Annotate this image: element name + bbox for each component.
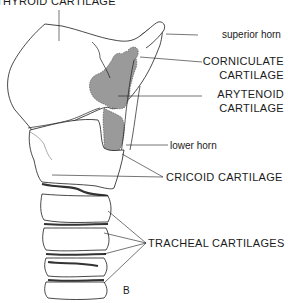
label-tracheal-cartilages: TRACHEAL CARTILAGES [148,238,285,249]
label-superior-horn: superior horn [222,30,281,40]
panel-label: B [123,286,130,296]
label-thyroid-cartilage: THYROID CARTILAGE [0,0,116,7]
label-corniculate-1: CORNICULATE [203,56,284,67]
label-arytenoid-1: ARYTENOID [217,89,284,100]
label-lower-horn: lower horn [170,141,217,151]
thyroid-cartilage [8,24,163,131]
label-cricoid-cartilage: CRICOID CARTILAGE [166,172,283,183]
label-arytenoid-2: CARTILAGE [219,103,284,114]
tracheal-cartilages [41,194,111,300]
label-corniculate-2: CARTILAGE [219,70,284,81]
larynx-diagram [0,0,288,303]
